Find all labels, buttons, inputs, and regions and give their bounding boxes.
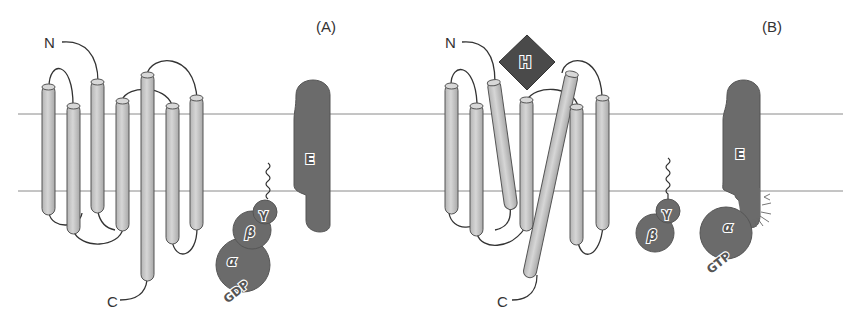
beta-label: β	[646, 227, 657, 243]
g-protein-alpha: α GTP	[700, 207, 752, 277]
gamma-label: γ	[662, 205, 671, 220]
lipid-anchor	[666, 158, 670, 204]
helix-4	[116, 98, 129, 231]
effector: E	[723, 80, 760, 228]
helix-1	[42, 84, 55, 215]
helix-3	[91, 79, 104, 213]
n-terminus-label: N	[44, 34, 55, 51]
c-terminus-label: C	[497, 293, 508, 310]
helix-7	[190, 95, 203, 230]
helix-1	[445, 83, 458, 214]
ligand-label: H	[519, 54, 532, 72]
helix-5	[141, 72, 154, 281]
alpha-label: α	[723, 219, 733, 235]
helix-4	[520, 97, 533, 231]
helix-2	[470, 103, 483, 236]
receptor-helices	[42, 72, 203, 281]
g-protein: γ β α GDP	[216, 163, 277, 306]
receptor-helices	[445, 70, 609, 279]
c-terminal-tail	[120, 280, 147, 300]
panel-label: (A)	[316, 18, 336, 35]
c-terminus-label: C	[107, 293, 118, 310]
panel-b: (B) H N C	[445, 18, 782, 310]
helix-2	[67, 103, 80, 234]
helix-6	[166, 103, 179, 244]
effector-label: E	[305, 151, 315, 167]
panel-a: (A) N C E	[42, 18, 336, 310]
gpcr-diagram: (A) N C E	[0, 0, 857, 321]
gamma-label: γ	[259, 206, 268, 221]
g-protein-beta-gamma: γ β	[636, 158, 680, 252]
helix-7	[596, 95, 609, 230]
beta-label: β	[244, 224, 255, 240]
effector: E	[294, 80, 330, 232]
ligand: H	[499, 35, 555, 90]
panel-label: (B)	[762, 18, 782, 35]
lipid-anchor	[266, 163, 270, 199]
effector-label: E	[735, 146, 745, 162]
alpha-label: α	[227, 253, 237, 269]
n-terminus-label: N	[445, 34, 456, 51]
n-terminal-tail	[462, 42, 495, 82]
helix-6	[570, 104, 583, 245]
c-terminal-tail	[512, 275, 537, 300]
